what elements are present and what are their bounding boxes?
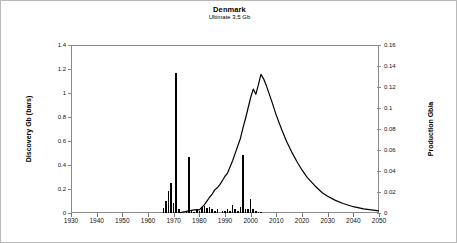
y-tick-label-right: 0.06 — [384, 147, 424, 153]
y-axis-right-label-text: Production Gb/a — [427, 102, 434, 156]
y-tick-label-left: 0.8 — [26, 114, 66, 120]
plot-area: 00.20.40.60.811.21.4 00.020.040.060.080.… — [71, 45, 379, 213]
y-tick-label-right: 0.1 — [384, 105, 424, 111]
chart-title: Denmark — [1, 5, 457, 14]
x-tick-label: 2050 — [359, 217, 399, 224]
chart-subtitle: Ultimate 3,5 Gb — [1, 14, 457, 20]
chart-frame: Denmark Ultimate 3,5 Gb Discovery Gb (ba… — [0, 0, 457, 243]
y-tick-label-left: 1.4 — [26, 42, 66, 48]
y-tick-label-right: 0.04 — [384, 168, 424, 174]
y-tick-label-left: 0 — [26, 210, 66, 216]
y-tick-label-right: 0 — [384, 210, 424, 216]
y-axis-right-label: Production Gb/a — [425, 45, 435, 213]
y-tick-label-left: 1 — [26, 90, 66, 96]
y-axis-left-label-text: Discovery Gb (bars) — [25, 96, 32, 163]
y-tick-label-left: 1.2 — [26, 66, 66, 72]
y-tick-label-left: 0.4 — [26, 162, 66, 168]
y-tick-label-right: 0.02 — [384, 189, 424, 195]
y-tick-label-right: 0.16 — [384, 42, 424, 48]
y-tick-label-right: 0.08 — [384, 126, 424, 132]
production-curve — [71, 45, 379, 213]
y-tick-label-right: 0.12 — [384, 84, 424, 90]
y-tick-label-left: 0.6 — [26, 138, 66, 144]
y-tick-label-left: 0.2 — [26, 186, 66, 192]
y-tick-label-right: 0.14 — [384, 63, 424, 69]
